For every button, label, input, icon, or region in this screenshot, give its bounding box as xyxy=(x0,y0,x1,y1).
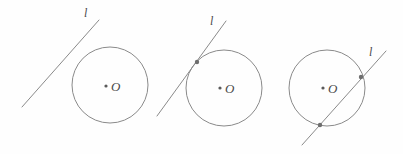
line-label-l: l xyxy=(84,6,88,20)
geometry-figure: O l O l O l xyxy=(0,0,403,154)
tangent-point-dot xyxy=(195,60,199,64)
center-point-dot xyxy=(104,84,107,87)
center-point-dot xyxy=(218,86,221,89)
panel-separate: O l xyxy=(22,6,148,123)
line-l xyxy=(302,51,386,145)
center-label-o: O xyxy=(225,81,235,96)
figure-canvas: O l O l O l xyxy=(0,0,403,154)
circle-outline xyxy=(72,47,148,123)
intersection-point-lower-dot xyxy=(318,123,322,127)
panel-tangent: O l xyxy=(157,14,262,126)
center-label-o: O xyxy=(328,81,338,96)
line-label-l: l xyxy=(369,45,373,59)
intersection-point-upper-dot xyxy=(359,75,363,79)
line-label-l: l xyxy=(210,14,214,28)
line-l xyxy=(157,21,226,116)
center-point-dot xyxy=(321,86,324,89)
center-label-o: O xyxy=(111,79,121,94)
panel-secant: O l xyxy=(289,45,386,145)
line-l xyxy=(22,20,99,107)
